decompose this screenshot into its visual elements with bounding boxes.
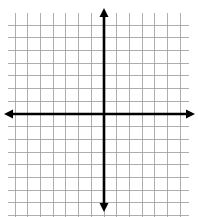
coordinate-graph: [0, 0, 198, 217]
graph-background: [0, 0, 198, 217]
graph-canvas: [0, 0, 198, 217]
